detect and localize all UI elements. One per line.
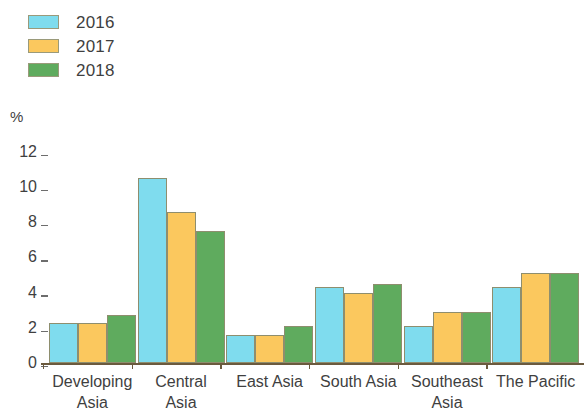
- x-axis-label: CentralAsia: [137, 371, 226, 413]
- bar-2016[interactable]: [492, 287, 521, 363]
- x-axis-group-tick: [309, 363, 311, 369]
- x-axis-label-line: Developing: [48, 371, 137, 392]
- x-axis-label-line: Asia: [48, 392, 137, 413]
- x-axis-baseline: [41, 363, 584, 365]
- x-axis-label-line: Central: [137, 371, 226, 392]
- bar-2016[interactable]: [404, 326, 433, 363]
- x-axis-group-tick: [43, 363, 45, 369]
- bar-group: [138, 43, 225, 363]
- bar-2017[interactable]: [344, 293, 373, 363]
- x-axis-label: East Asia: [225, 371, 314, 392]
- bar-group: [404, 43, 491, 363]
- x-axis-group-tick: [220, 363, 222, 369]
- bar-group: [49, 43, 136, 363]
- bar-2016[interactable]: [138, 178, 167, 363]
- bar-2018[interactable]: [107, 315, 136, 363]
- bar-chart: 024681012 DevelopingAsiaCentralAsiaEast …: [0, 0, 584, 413]
- bar-2018[interactable]: [550, 273, 579, 363]
- x-axis-label: South Asia: [314, 371, 403, 392]
- x-axis-label: The Pacific: [491, 371, 580, 392]
- x-axis-label: SoutheastAsia: [403, 371, 492, 413]
- bar-2016[interactable]: [226, 335, 255, 363]
- x-axis-label-line: South Asia: [314, 371, 403, 392]
- x-axis-group-tick: [486, 363, 488, 369]
- x-axis-label-line: East Asia: [225, 371, 314, 392]
- bar-group: [315, 43, 402, 363]
- bar-2018[interactable]: [284, 326, 313, 363]
- bar-group: [492, 43, 579, 363]
- x-axis-label: DevelopingAsia: [48, 371, 137, 413]
- x-axis-label-line: The Pacific: [491, 371, 580, 392]
- bars-layer: [0, 0, 584, 413]
- x-axis-label-line: Asia: [403, 392, 492, 413]
- x-axis-group-tick: [132, 363, 134, 369]
- bar-group: [226, 43, 313, 363]
- bar-2016[interactable]: [315, 287, 344, 363]
- bar-2017[interactable]: [521, 273, 550, 363]
- x-axis-label-line: Southeast: [403, 371, 492, 392]
- bar-2018[interactable]: [462, 312, 491, 363]
- bar-2017[interactable]: [167, 212, 196, 363]
- bar-2017[interactable]: [433, 312, 462, 363]
- bar-2018[interactable]: [373, 284, 402, 363]
- bar-2016[interactable]: [49, 323, 78, 363]
- bar-2017[interactable]: [78, 323, 107, 363]
- x-axis-label-line: Asia: [137, 392, 226, 413]
- x-axis-group-tick: [398, 363, 400, 369]
- bar-2017[interactable]: [255, 335, 284, 363]
- bar-2018[interactable]: [196, 231, 225, 363]
